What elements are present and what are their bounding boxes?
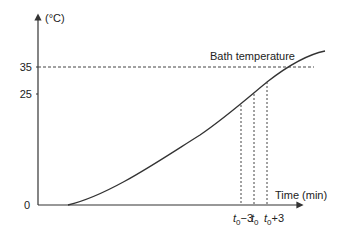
temperature-curve [68,51,325,205]
x-tick-t0-plus-3: t0+3 [264,212,284,227]
y-tick-35: 35 [20,61,32,73]
bath-temperature-label: Bath temperature [210,50,295,62]
y-tick-25: 25 [20,88,32,100]
x-axis-label: Time (min) [275,189,327,201]
y-tick-0: 0 [24,199,30,211]
y-axis-label: (°C) [45,12,65,24]
x-tick-t0: t0 [251,212,259,227]
temperature-chart: (°C) 35 25 0 Bath temperature Time (min)… [0,0,341,233]
